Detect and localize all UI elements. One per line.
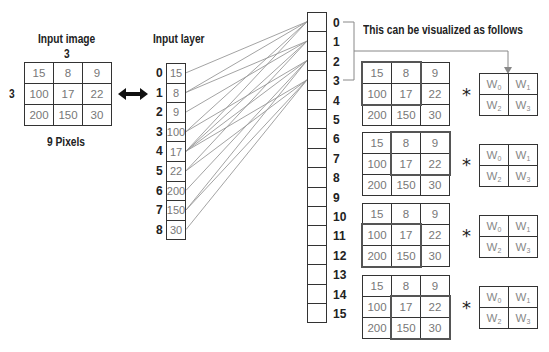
- weight-label: W3: [516, 99, 531, 112]
- pixel-cell: 200: [362, 104, 392, 126]
- weight-label: W2: [487, 241, 502, 254]
- pixel-cell: 150: [391, 317, 421, 339]
- pixel-cell: 8: [391, 62, 421, 84]
- multiply-operator: *: [462, 154, 471, 175]
- weight-label: W3: [516, 241, 531, 254]
- weight-subscript: 0: [497, 84, 501, 91]
- pixel-cell: 30: [420, 245, 450, 267]
- weight-label: W0: [487, 78, 502, 91]
- pixel-cell: 15: [362, 275, 392, 297]
- pixel-cell: 100: [362, 296, 392, 318]
- weight-cell: W3: [508, 94, 538, 116]
- pixel-cell: 17: [391, 153, 421, 175]
- weight-cell: W3: [508, 236, 538, 258]
- weight-subscript: 2: [497, 105, 501, 112]
- weight-cell: W1: [508, 144, 538, 166]
- pixel-cell: 22: [420, 224, 450, 246]
- pixel-cell: 100: [362, 224, 392, 246]
- pixel-cell: 22: [420, 83, 450, 105]
- pixel-cell: 8: [391, 275, 421, 297]
- multiply-operator: *: [462, 225, 471, 246]
- pixel-cell: 200: [362, 174, 392, 196]
- weight-cell: W2: [479, 165, 509, 187]
- pixel-cell: 150: [391, 245, 421, 267]
- weight-label: W3: [516, 170, 531, 183]
- pixel-cell: 8: [391, 132, 421, 154]
- weight-cell: W0: [479, 144, 509, 166]
- pixel-cell: 15: [362, 62, 392, 84]
- pixel-cell: 100: [362, 83, 392, 105]
- weight-subscript: 2: [497, 176, 501, 183]
- pixel-cell: 8: [391, 203, 421, 225]
- multiply-operator: *: [462, 297, 471, 318]
- weight-cell: W0: [479, 73, 509, 95]
- pixel-cell: 15: [362, 203, 392, 225]
- pixel-cell: 200: [362, 317, 392, 339]
- weight-label: W1: [516, 78, 531, 91]
- weight-cell: W0: [479, 215, 509, 237]
- weight-subscript: 0: [497, 226, 501, 233]
- pixel-cell: 17: [391, 83, 421, 105]
- weight-label: W3: [516, 312, 531, 325]
- pixel-cell: 17: [391, 296, 421, 318]
- multiply-operator: *: [462, 84, 471, 105]
- pixel-cell: 22: [420, 296, 450, 318]
- weight-label: W2: [487, 99, 502, 112]
- weight-cell: W1: [508, 286, 538, 308]
- weight-label: W1: [516, 291, 531, 304]
- weight-cell: W2: [479, 94, 509, 116]
- pixel-cell: 150: [391, 174, 421, 196]
- weight-cell: W1: [508, 73, 538, 95]
- weight-label: W2: [487, 170, 502, 183]
- pixel-cell: 9: [420, 62, 450, 84]
- pixel-cell: 100: [362, 153, 392, 175]
- weight-label: W1: [516, 220, 531, 233]
- weight-subscript: 0: [497, 297, 501, 304]
- pixel-cell: 150: [391, 104, 421, 126]
- weight-label: W0: [487, 149, 502, 162]
- weight-cell: W0: [479, 286, 509, 308]
- weight-subscript: 3: [526, 176, 530, 183]
- pixel-cell: 30: [420, 174, 450, 196]
- weight-cell: W2: [479, 307, 509, 329]
- weight-subscript: 3: [526, 318, 530, 325]
- pixel-cell: 30: [420, 317, 450, 339]
- pixel-cell: 22: [420, 153, 450, 175]
- weight-subscript: 1: [526, 297, 530, 304]
- pixel-cell: 200: [362, 245, 392, 267]
- weight-subscript: 1: [526, 155, 530, 162]
- weight-subscript: 3: [526, 247, 530, 254]
- weight-cell: W2: [479, 236, 509, 258]
- weight-label: W1: [516, 149, 531, 162]
- weight-subscript: 3: [526, 105, 530, 112]
- weight-cell: W3: [508, 165, 538, 187]
- pixel-cell: 9: [420, 203, 450, 225]
- weight-subscript: 2: [497, 247, 501, 254]
- pixel-cell: 9: [420, 275, 450, 297]
- weight-subscript: 1: [526, 84, 530, 91]
- weight-subscript: 1: [526, 226, 530, 233]
- weight-label: W0: [487, 220, 502, 233]
- weight-subscript: 0: [497, 155, 501, 162]
- pixel-cell: 30: [420, 104, 450, 126]
- weight-label: W0: [487, 291, 502, 304]
- pixel-cell: 15: [362, 132, 392, 154]
- pixel-cell: 17: [391, 224, 421, 246]
- weight-cell: W1: [508, 215, 538, 237]
- weight-subscript: 2: [497, 318, 501, 325]
- pixel-cell: 9: [420, 132, 450, 154]
- weight-label: W2: [487, 312, 502, 325]
- weight-cell: W3: [508, 307, 538, 329]
